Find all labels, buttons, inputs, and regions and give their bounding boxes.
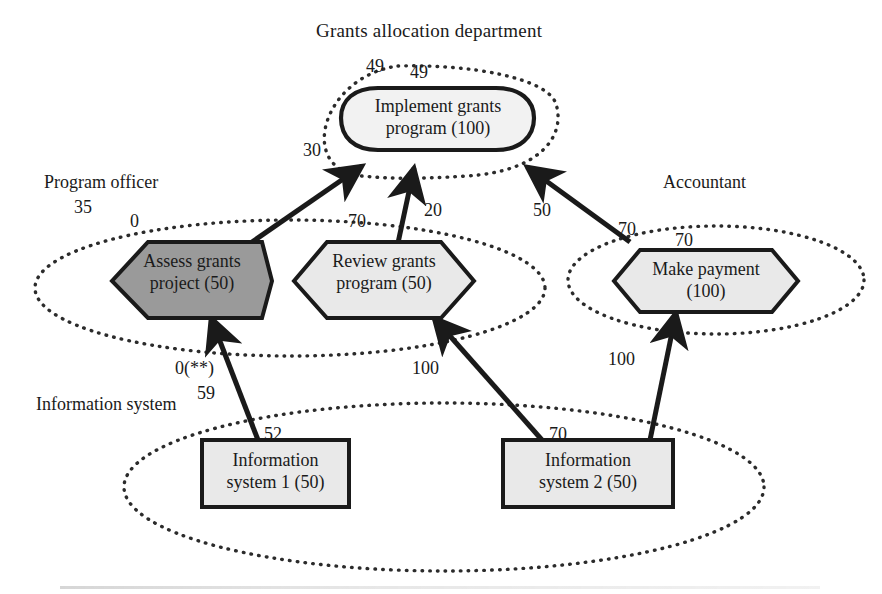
edge-infosys2-to-payment — [650, 313, 676, 440]
boundary-label-dept-outer-49: 49 — [366, 56, 384, 77]
edge-label-infosys2-to-review: 100 — [412, 358, 439, 379]
page-bottom-rule — [60, 586, 820, 589]
boundary-label-dept-inner-49: 49 — [410, 62, 428, 83]
node-line-1: Review grants — [332, 251, 435, 271]
node-label-information-system-1: Information system 1 (50) — [204, 450, 347, 494]
node-line-2: (100) — [687, 281, 726, 301]
boundary-label-dept-left-30: 30 — [303, 140, 321, 161]
node-line-2: system 1 (50) — [227, 472, 325, 492]
edge-label-infosys2-to-payment: 100 — [608, 349, 635, 370]
boundary-label-infosys2-70: 70 — [549, 424, 567, 445]
node-label-make-payment: Make payment (100) — [633, 259, 779, 303]
swimlane-label-program-officer: Program officer — [44, 172, 158, 193]
boundary-label-infosys1-52: 52 — [264, 424, 282, 445]
node-line-2: program (50) — [336, 273, 431, 293]
node-line-1: Information — [545, 450, 631, 470]
swimlane-label-accountant: Accountant — [663, 172, 746, 193]
edge-assess-to-implement — [252, 166, 362, 242]
node-label-review-grants-program: Review grants program (50) — [314, 251, 454, 295]
node-label-implement-grants-program: Implement grants program (100) — [348, 96, 528, 140]
edge-label-payment-to-implement: 50 — [533, 200, 551, 221]
boundary-label-accountant-inner-70: 70 — [675, 230, 693, 251]
boundary-label-officer-inner-0: 0 — [130, 211, 139, 232]
boundary-label-officer-outer-35: 35 — [74, 197, 92, 218]
node-line-2: system 2 (50) — [539, 472, 637, 492]
boundary-label-accountant-outer-70: 70 — [618, 219, 636, 240]
swimlane-label-information-system: Information system — [36, 394, 176, 415]
edge-infosys2-to-review — [434, 318, 542, 440]
boundary-label-officer-review-70: 70 — [348, 211, 366, 232]
node-line-2: program (100) — [386, 118, 490, 138]
node-line-2: project (50) — [150, 273, 234, 293]
boundary-label-infosys-outer-0: 0(**) — [175, 358, 214, 379]
edge-label-review-to-implement: 20 — [424, 200, 442, 221]
node-line-1: Assess grants — [143, 251, 241, 271]
boundary-label-infosys-inner-59: 59 — [197, 383, 215, 404]
diagram-canvas: Grants allocation department Program off… — [0, 0, 882, 594]
node-label-information-system-2: Information system 2 (50) — [505, 450, 671, 494]
node-label-assess-grants-project: Assess grants project (50) — [122, 251, 262, 295]
node-line-1: Information — [233, 450, 319, 470]
diagram-title: Grants allocation department — [316, 20, 542, 42]
edge-infosys1-to-assess — [211, 318, 258, 440]
node-line-1: Implement grants — [375, 96, 501, 116]
node-line-1: Make payment — [652, 259, 759, 279]
